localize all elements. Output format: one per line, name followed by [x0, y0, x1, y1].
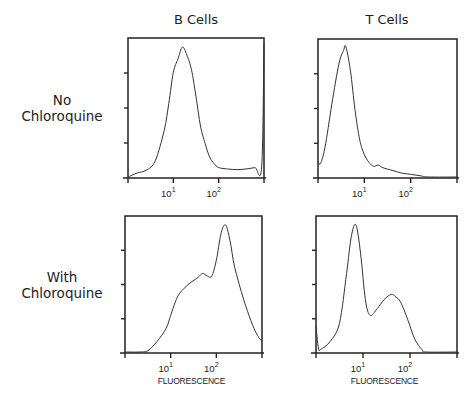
x-tick-label: 102 — [398, 361, 413, 374]
histogram-curve — [128, 43, 264, 177]
x-axis-label: FLUORESCENCE — [158, 376, 226, 386]
panel-t-cells-no-chloroquine: 101102 — [313, 39, 459, 199]
histogram-curve — [316, 224, 457, 352]
histogram-curve — [318, 45, 457, 177]
x-tick-label: 102 — [204, 361, 219, 374]
row-label-no-line1: No — [53, 92, 71, 108]
panel-b-cells-no-chloroquine: 101102 — [123, 38, 266, 199]
panel-frame — [128, 38, 264, 178]
panel-t-cells-with-chloroquine: 101102FLUORESCENCE — [311, 216, 459, 386]
histogram-panels: 101102101102101102FLUORESCENCE101102FLUO… — [120, 38, 459, 386]
x-tick-label: 102 — [398, 186, 413, 199]
row-label-no-line2: Chloroquine — [21, 108, 102, 124]
x-tick-label: 102 — [206, 186, 221, 199]
panel-b-cells-with-chloroquine: 101102FLUORESCENCE — [120, 216, 264, 386]
column-title-b-cells: B Cells — [174, 12, 218, 27]
x-axis-label: FLUORESCENCE — [351, 376, 419, 386]
x-tick-label: 101 — [158, 361, 173, 374]
x-tick-label: 101 — [351, 361, 366, 374]
row-label-with-line2: Chloroquine — [21, 285, 102, 301]
x-tick-label: 101 — [352, 186, 367, 199]
panel-frame — [318, 39, 457, 178]
x-tick-label: 101 — [161, 186, 176, 199]
panel-frame — [316, 216, 457, 353]
column-title-t-cells: T Cells — [364, 12, 408, 27]
row-label-with-line1: With — [47, 269, 78, 285]
figure: B Cells T Cells No Chloroquine With Chlo… — [0, 0, 474, 403]
panel-frame — [125, 216, 262, 353]
histogram-curve — [125, 225, 262, 352]
